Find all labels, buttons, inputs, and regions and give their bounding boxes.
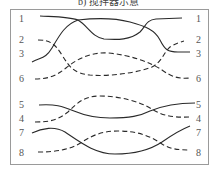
left-label-8: 8 bbox=[19, 148, 24, 158]
left-label-6: 6 bbox=[19, 74, 24, 84]
left-label-3: 3 bbox=[19, 49, 24, 59]
right-label-1: 1 bbox=[196, 14, 201, 24]
left-label-4: 4 bbox=[19, 114, 24, 124]
right-label-3: 3 bbox=[196, 49, 201, 59]
strand-diagram bbox=[0, 0, 217, 175]
strand-8 bbox=[38, 131, 190, 152]
left-label-2: 2 bbox=[19, 35, 24, 45]
right-label-2: 2 bbox=[196, 35, 201, 45]
strand-3 bbox=[32, 19, 190, 62]
right-label-4: 4 bbox=[196, 114, 201, 124]
right-label-5: 5 bbox=[196, 100, 201, 110]
right-label-8: 8 bbox=[196, 148, 201, 158]
left-label-5: 5 bbox=[19, 100, 24, 110]
right-label-6: 6 bbox=[196, 74, 201, 84]
left-label-7: 7 bbox=[19, 128, 24, 138]
left-label-1: 1 bbox=[19, 14, 24, 24]
strand-1 bbox=[40, 16, 182, 39]
right-label-7: 7 bbox=[196, 128, 201, 138]
strand-7 bbox=[32, 126, 190, 154]
